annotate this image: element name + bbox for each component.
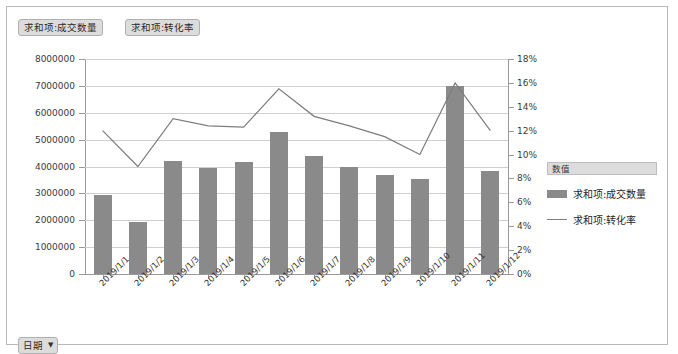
y-axis-right-tick <box>508 83 514 84</box>
y-axis-left-tick-label: 7000000 <box>7 81 75 91</box>
y-axis-left-tick-label: 3000000 <box>7 188 75 198</box>
y-axis-right-tick <box>508 155 514 156</box>
filter-button-date[interactable]: 日期 ▼ <box>18 337 58 354</box>
y-axis-right-tick-label: 8% <box>517 173 531 183</box>
line-series-sum-conversion-rate <box>85 59 508 274</box>
filter-button-label: 日期 <box>23 338 43 353</box>
y-axis-right-tick <box>508 178 514 179</box>
y-axis-right-tick <box>508 59 514 60</box>
legend-title: 数值 <box>547 162 657 175</box>
field-button-sum-quantity[interactable]: 求和项:成交数量 <box>18 19 103 36</box>
y-axis-left-tick-label: 1000000 <box>7 242 75 252</box>
legend-item-sum-conversion-rate: 求和项:转化率 <box>547 212 665 227</box>
chevron-down-icon: ▼ <box>48 338 53 353</box>
plot-area <box>85 59 508 274</box>
y-axis-left-tick-label: 6000000 <box>7 108 75 118</box>
y-axis-left-tick-label: 0 <box>7 269 75 279</box>
y-axis-right-tick-label: 14% <box>517 102 537 112</box>
y-axis-right-tick-label: 18% <box>517 54 537 64</box>
y-axis-right-tick-label: 10% <box>517 150 537 160</box>
y-axis-right-line <box>508 59 509 275</box>
y-axis-right-tick <box>508 226 514 227</box>
y-axis-right-tick-label: 12% <box>517 126 537 136</box>
y-axis-left-tick <box>79 274 85 275</box>
y-axis-left-tick-label: 8000000 <box>7 54 75 64</box>
y-axis-right-tick <box>508 202 514 203</box>
legend-item-sum-quantity: 求和项:成交数量 <box>547 186 665 201</box>
field-button-sum-conversion-rate[interactable]: 求和项:转化率 <box>125 19 200 36</box>
y-axis-left-tick-label: 2000000 <box>7 215 75 225</box>
y-axis-right-tick <box>508 107 514 108</box>
y-axis-right-tick-label: 16% <box>517 78 537 88</box>
y-axis-right-tick <box>508 131 514 132</box>
pivot-chart-frame: 求和项:成交数量 求和项:转化率 01000000200000030000004… <box>6 6 668 345</box>
y-axis-right-tick-label: 0% <box>517 269 531 279</box>
legend-label-sum-conversion-rate: 求和项:转化率 <box>573 212 636 227</box>
y-axis-right-tick-label: 6% <box>517 197 531 207</box>
legend-label-sum-quantity: 求和项:成交数量 <box>573 186 646 201</box>
legend-bar-swatch-icon <box>547 190 567 198</box>
y-axis-left-tick-label: 5000000 <box>7 135 75 145</box>
chart-legend: 数值 求和项:成交数量 求和项:转化率 <box>547 162 665 227</box>
legend-line-swatch-icon <box>547 219 567 220</box>
y-axis-right-tick-label: 4% <box>517 221 531 231</box>
y-axis-right-tick <box>508 274 514 275</box>
y-axis-left-tick-label: 4000000 <box>7 162 75 172</box>
